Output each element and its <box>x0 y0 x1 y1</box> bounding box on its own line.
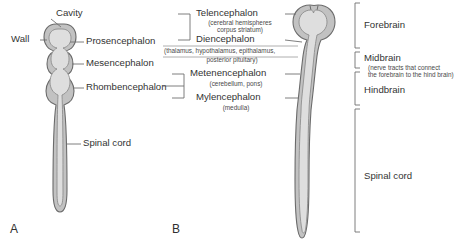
label-rhombencephalon: Rhombencephalon <box>86 82 167 92</box>
brain-b-cavity <box>299 10 327 233</box>
label-forebrain: Forebrain <box>364 20 405 30</box>
neural-tube-a-cavity <box>49 29 71 206</box>
label-midbrain-sub-line2: the forebrain to the hind brain) <box>368 71 454 78</box>
label-cavity: Cavity <box>56 8 83 18</box>
figure-root: Cavity Wall Prosencephalon Mesencephalon… <box>0 0 465 247</box>
bracket-spinal-cord-b <box>355 109 360 232</box>
panel-letter-a: A <box>10 222 18 236</box>
bracket-forebrain <box>355 3 360 48</box>
label-wall: Wall <box>11 34 29 44</box>
label-midbrain: Midbrain <box>364 53 401 63</box>
label-prosencephalon: Prosencephalon <box>86 36 155 46</box>
panel-letter-b: B <box>172 222 180 236</box>
label-spinal-cord-b: Spinal cord <box>364 171 412 181</box>
brain-b-body <box>293 5 335 238</box>
label-mesencephalon: Mesencephalon <box>86 58 154 68</box>
bracket-hindbrain <box>355 72 360 105</box>
bracket-midbrain <box>355 52 360 68</box>
label-diencephalon-sub-line2: posterior pituitary) <box>172 56 292 63</box>
label-metenencephalon-sub: (cerebellum, pons) <box>190 80 282 87</box>
label-diencephalon-sub-line1: (thalamus, hypothalamus, epithalamus, <box>164 47 275 54</box>
leader-diencephalon <box>285 40 302 42</box>
label-telencephalon: Telencephalon <box>196 8 258 18</box>
label-spinal-cord-a: Spinal cord <box>83 138 131 148</box>
label-metenencephalon: Metenencephalon <box>190 68 266 78</box>
label-diencephalon: Diencephalon <box>196 34 255 44</box>
label-mylencephalon-sub: (medulla) <box>196 104 276 111</box>
bracket-forebrain-group <box>178 14 190 40</box>
label-mylencephalon: Mylencephalon <box>196 92 261 102</box>
label-hindbrain: Hindbrain <box>364 85 405 95</box>
